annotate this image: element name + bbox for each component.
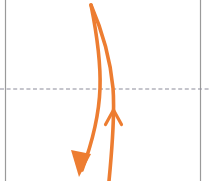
diagram-canvas — [0, 0, 209, 181]
diagram-svg — [0, 0, 209, 181]
canvas-background — [0, 0, 209, 181]
